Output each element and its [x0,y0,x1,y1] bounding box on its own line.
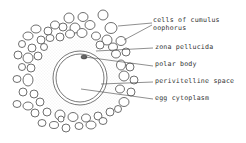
cumulus-cell [41,44,48,51]
leader-line-cells-of-cumulus-oophorus [118,23,152,26]
cumulus-cell [112,50,121,58]
cumulus-cell [50,122,59,129]
cumulus-cell [23,32,33,40]
cumulus-cell [119,98,129,107]
cumulus-cell [43,108,51,116]
cumulus-cell [19,88,27,96]
label-zona-pellucida: zona pellucida [155,43,213,51]
cumulus-cell [99,118,107,125]
cumulus-cell [64,13,74,23]
cumulus-cell [34,52,42,60]
ovum-diagram: cells of cumulusoophoruszona pellucidapo… [0,0,246,143]
cumulus-cell [23,53,33,63]
cumulus-cell [37,36,45,44]
cumulus-cell [116,37,126,46]
cumulus-cell [19,64,26,71]
cumulus-cell [13,76,21,83]
cumulus-cell [86,121,96,129]
leader-line-cells-of-cumulus-oophorus [124,25,152,40]
cumulus-cell [44,27,52,35]
cumulus-cell [59,23,67,31]
cumulus-cell [14,51,22,59]
cumulus-cell [36,98,44,106]
cumulus-cell [58,116,64,122]
cumulus-cell [119,71,129,81]
label-polar-body: polar body [155,60,197,68]
cumulus-cell [106,108,114,116]
cumulus-cell [30,90,38,98]
cumulus-cell [62,124,70,132]
cumulus-cell [13,101,21,108]
cumulus-cell [19,41,26,48]
cumulus-cell [23,102,33,110]
cumulus-cell [92,32,101,40]
cumulus-cell [38,120,46,127]
cumulus-cell [115,106,122,113]
egg-cytoplasm-boundary [56,54,104,102]
cumulus-cell [28,44,36,52]
labels: cells of cumulusoophoruszona pellucidapo… [153,16,234,102]
cumulus-cell [116,85,125,93]
cumulus-cell [78,13,88,22]
cumulus-cell [98,10,108,20]
cumulus-cell [51,21,60,29]
cumulus-cell [31,109,39,117]
cumulus-cell [96,41,104,49]
cumulus-cell [126,63,134,71]
cumulus-cell [31,25,41,33]
cumulus-cell [85,21,95,30]
cumulus-cell [68,113,78,122]
cumulus-cell [127,88,135,96]
cumulus-cell [77,29,87,38]
cumulus-cell [27,64,35,72]
cumulus-cell [66,30,75,38]
cumulus-cell [75,123,83,130]
label-perivitelline-space: perivitelline space [155,77,234,85]
cumulus-cell [56,33,64,41]
cumulus-cell [46,35,54,42]
label-egg-cytoplasm: egg cytoplasm [155,94,209,102]
label-cells-of-cumulus-oophorus: oophorus [153,24,186,32]
cumulus-cell [82,114,91,122]
label-cells-of-cumulus-oophorus: cells of cumulus [153,16,220,24]
cumulus-cell [23,74,33,86]
cumulus-cell [105,23,117,34]
